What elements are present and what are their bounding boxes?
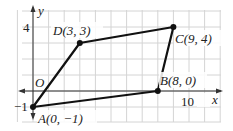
x-tick-label-10: 10 — [181, 94, 194, 109]
point-B — [155, 88, 161, 94]
label-A: A(0, −1) — [37, 111, 83, 126]
y-tick-label-4: 4 — [23, 20, 30, 35]
y-axis-arrow-down-icon — [31, 113, 36, 120]
y-axis-arrow-up-icon — [31, 5, 36, 12]
point-D — [77, 40, 83, 46]
x-axis-arrow-left-icon — [18, 89, 25, 94]
y-tick-label-neg1: −1 — [14, 99, 28, 114]
y-axis-label: y — [36, 3, 44, 18]
origin-label: O — [35, 75, 45, 90]
x-axis-label: x — [211, 92, 218, 107]
label-B: B(8, 0) — [160, 73, 196, 88]
point-C — [170, 24, 176, 30]
quadrilateral-ABCD — [33, 27, 173, 107]
label-C: C(9, 4) — [175, 31, 212, 46]
label-D: D(3, 3) — [52, 23, 91, 38]
coordinate-plane: D(3, 3) C(9, 4) B(8, 0) A(0, −1) O y x 1… — [0, 0, 233, 131]
point-A — [30, 104, 36, 110]
